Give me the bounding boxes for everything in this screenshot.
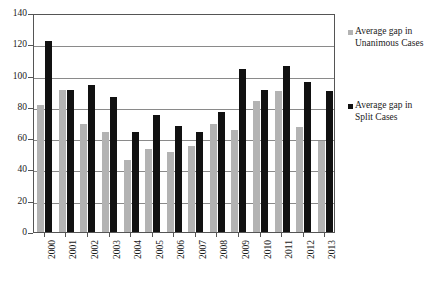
bar-split-2001 bbox=[67, 90, 74, 232]
y-tick-label: 100 bbox=[13, 72, 27, 82]
bar-group bbox=[231, 15, 246, 232]
x-tick-mark bbox=[173, 233, 174, 237]
bar-unanimous-2011 bbox=[275, 91, 282, 232]
bar-group bbox=[59, 15, 74, 232]
x-tick-mark bbox=[281, 233, 282, 237]
bars-layer bbox=[34, 15, 334, 232]
legend-swatch-icon bbox=[348, 104, 353, 109]
bar-unanimous-2009 bbox=[231, 130, 238, 232]
bar-unanimous-2004 bbox=[124, 160, 131, 232]
legend-label: Average gap in Unanimous Cases bbox=[355, 26, 431, 49]
x-tick-label-2010: 2010 bbox=[264, 240, 274, 259]
x-tick-label-2012: 2012 bbox=[307, 240, 317, 259]
x-tick-mark bbox=[152, 233, 153, 237]
bar-group bbox=[145, 15, 160, 232]
bar-group bbox=[188, 15, 203, 232]
bar-split-2008 bbox=[218, 112, 225, 232]
bar-unanimous-2007 bbox=[188, 146, 195, 232]
bar-group bbox=[318, 15, 333, 232]
x-tick-mark bbox=[303, 233, 304, 237]
bar-unanimous-2013 bbox=[318, 141, 325, 232]
plot-area bbox=[33, 14, 335, 233]
x-tick-mark bbox=[130, 233, 131, 237]
bar-group bbox=[253, 15, 268, 232]
bar-chart: 020406080100120140 200020012002200320042… bbox=[0, 0, 435, 282]
legend-label: Average gap in Split Cases bbox=[355, 100, 431, 123]
x-tick-label-2003: 2003 bbox=[113, 240, 123, 259]
x-tick-label-2013: 2013 bbox=[328, 240, 338, 259]
x-tick-mark bbox=[109, 233, 110, 237]
bar-split-2006 bbox=[175, 126, 182, 232]
bar-unanimous-2003 bbox=[102, 132, 109, 232]
bar-split-2013 bbox=[326, 91, 333, 232]
bar-split-2011 bbox=[283, 66, 290, 232]
bar-group bbox=[80, 15, 95, 232]
bar-split-2002 bbox=[88, 85, 95, 232]
bar-group bbox=[102, 15, 117, 232]
x-tick-label-2001: 2001 bbox=[69, 240, 79, 259]
y-axis: 020406080100120140 bbox=[0, 0, 33, 282]
bar-group bbox=[275, 15, 290, 232]
x-tick-mark bbox=[87, 233, 88, 237]
y-tick-label: 60 bbox=[18, 134, 28, 144]
bar-split-2004 bbox=[132, 132, 139, 232]
bar-split-2012 bbox=[304, 82, 311, 232]
bar-split-2005 bbox=[153, 115, 160, 232]
x-axis: 2000200120022003200420052006200720082009… bbox=[33, 233, 335, 282]
bar-unanimous-2001 bbox=[59, 90, 66, 232]
bar-unanimous-2005 bbox=[145, 149, 152, 232]
x-tick-mark bbox=[260, 233, 261, 237]
x-tick-label-2002: 2002 bbox=[91, 240, 101, 259]
bar-group bbox=[37, 15, 52, 232]
x-tick-label-2008: 2008 bbox=[220, 240, 230, 259]
x-tick-label-2006: 2006 bbox=[177, 240, 187, 259]
bar-split-2009 bbox=[239, 69, 246, 232]
x-tick-label-2007: 2007 bbox=[199, 240, 209, 259]
x-tick-mark bbox=[44, 233, 45, 237]
bar-split-2000 bbox=[45, 41, 52, 232]
bar-unanimous-2006 bbox=[167, 152, 174, 232]
bar-group bbox=[210, 15, 225, 232]
legend-swatch-icon bbox=[348, 30, 353, 35]
y-tick-label: 40 bbox=[18, 166, 28, 176]
bar-group bbox=[124, 15, 139, 232]
x-tick-mark bbox=[324, 233, 325, 237]
bar-split-2010 bbox=[261, 90, 268, 232]
x-tick-mark bbox=[65, 233, 66, 237]
x-tick-mark bbox=[216, 233, 217, 237]
y-tick-label: 20 bbox=[18, 197, 28, 207]
bar-unanimous-2000 bbox=[37, 105, 44, 232]
y-tick-label: 120 bbox=[13, 41, 27, 51]
bar-unanimous-2002 bbox=[80, 124, 87, 232]
x-tick-label-2005: 2005 bbox=[156, 240, 166, 259]
bar-unanimous-2008 bbox=[210, 124, 217, 232]
x-tick-mark bbox=[238, 233, 239, 237]
y-tick-label: 0 bbox=[22, 228, 27, 238]
y-tick-label: 140 bbox=[13, 9, 27, 19]
x-tick-label-2004: 2004 bbox=[134, 240, 144, 259]
x-tick-label-2000: 2000 bbox=[48, 240, 58, 259]
legend-item-0[interactable]: Average gap in Unanimous Cases bbox=[348, 26, 435, 49]
bar-unanimous-2012 bbox=[296, 127, 303, 232]
x-tick-label-2009: 2009 bbox=[242, 240, 252, 259]
legend-item-1[interactable]: Average gap in Split Cases bbox=[348, 100, 435, 123]
bar-group bbox=[167, 15, 182, 232]
x-tick-label-2011: 2011 bbox=[285, 240, 295, 259]
x-tick-mark bbox=[195, 233, 196, 237]
bar-group bbox=[296, 15, 311, 232]
y-tick-label: 80 bbox=[18, 103, 28, 113]
bar-unanimous-2010 bbox=[253, 101, 260, 232]
bar-split-2003 bbox=[110, 97, 117, 232]
bar-split-2007 bbox=[196, 132, 203, 232]
